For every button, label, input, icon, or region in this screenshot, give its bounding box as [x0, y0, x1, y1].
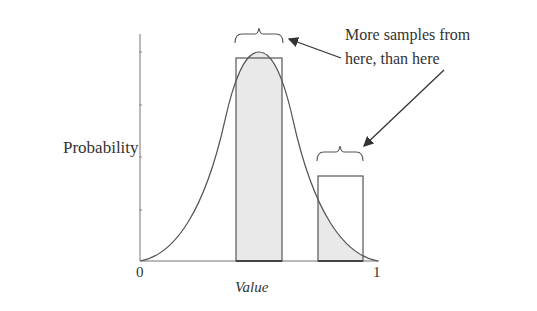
annotation-line-1: More samples from [345, 23, 470, 47]
x-tick-1: 1 [373, 264, 381, 281]
y-axis-label: Probability [63, 138, 139, 158]
brace-tail [317, 146, 363, 161]
x-tick-0: 0 [136, 264, 144, 281]
annotation-line-2: here, than here [345, 47, 470, 71]
brace-peak [235, 28, 283, 43]
x-axis-label: Value [235, 279, 268, 296]
annotation-text: More samples from here, than here [345, 23, 470, 71]
arrow-to-peak [289, 39, 341, 58]
arrow-to-tail [364, 70, 444, 146]
shaded-region-peak [140, 52, 378, 261]
